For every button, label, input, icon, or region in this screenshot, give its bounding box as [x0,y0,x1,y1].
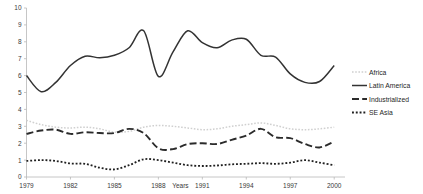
axis-tick-marks [24,8,334,180]
legend-label: SE Asia [369,109,393,116]
y-tick-label: 9 [18,21,22,28]
legend-label: Latin America [369,82,410,89]
x-tick-label: 1991 [195,182,210,189]
y-tick-label: 7 [18,55,22,62]
legend-label: Africa [369,69,387,76]
series-line [27,120,335,132]
legend-label: Industrialized [369,96,409,103]
y-tick-label: 5 [18,89,22,96]
x-tick-label: 1985 [107,182,122,189]
y-tick-label: 1 [18,157,22,164]
line-chart: 012345678910 197919821985198819911994199… [0,0,423,194]
series-line [27,159,335,170]
chart-canvas: 012345678910 197919821985198819911994199… [0,0,423,194]
x-axis-title: Years [172,182,189,189]
y-tick-label: 0 [18,173,22,180]
y-tick-label: 3 [18,123,22,130]
y-tick-label: 2 [18,140,22,147]
series-lines [27,30,335,169]
series-line [27,30,335,92]
y-tick-label: 6 [18,72,22,79]
y-tick-label: 8 [18,38,22,45]
x-tick-label: 1982 [63,182,78,189]
x-tick-label: 1979 [19,182,34,189]
chart-legend: AfricaLatin AmericaIndustrializedSE Asia [352,69,410,117]
x-tick-label: 2000 [327,182,342,189]
x-tick-label: 1988 [151,182,166,189]
y-tick-label: 10 [14,4,22,11]
y-tick-label: 4 [18,106,22,113]
x-tick-label: 1994 [239,182,254,189]
y-axis-tick-labels: 012345678910 [14,4,22,180]
x-tick-label: 1997 [283,182,298,189]
series-line [27,129,335,150]
